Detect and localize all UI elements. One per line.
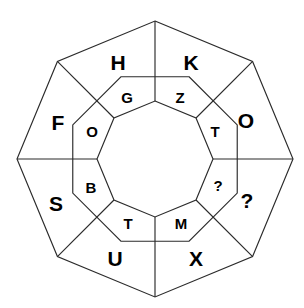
inner-cell-label-inner-6: T [123, 216, 132, 231]
inner-cell-label-inner-3: T [210, 124, 219, 139]
outer-cell-label-outer-8: F [52, 112, 65, 133]
inner-cell-label-inner-8: O [86, 124, 98, 139]
outer-cell-label-outer-3: O [238, 110, 254, 131]
inner-cell-label-inner-2: Z [175, 90, 184, 105]
outer-cell-label-outer-1: H [110, 52, 125, 73]
inner-octagon-outline [97, 101, 213, 217]
outer-cell-label-outer-4: ? [241, 190, 254, 211]
inner-cell-label-inner-1: G [121, 90, 133, 105]
inner-cell-label-inner-4: ? [213, 178, 222, 193]
outer-cell-label-outer-6: U [107, 248, 122, 269]
outer-cell-label-outer-2: K [183, 52, 198, 73]
puzzle-diagram: HKO?XUSFGZT?MTBO [0, 0, 304, 308]
octagon-wheel-graphic [0, 0, 304, 308]
inner-cell-label-inner-7: B [86, 180, 97, 195]
outer-cell-label-outer-7: S [49, 193, 63, 214]
outer-cell-label-outer-5: X [189, 248, 203, 269]
inner-cell-label-inner-5: M [175, 216, 188, 231]
